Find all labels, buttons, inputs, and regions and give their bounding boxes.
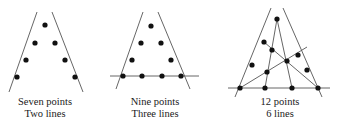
caption-figure-2: Nine points Three lines bbox=[115, 96, 195, 120]
point bbox=[158, 40, 163, 45]
caption-lines: Two lines bbox=[5, 108, 85, 120]
caption-points: 12 points bbox=[240, 96, 320, 108]
point bbox=[264, 69, 269, 74]
line bbox=[265, 19, 277, 88]
point bbox=[23, 57, 28, 62]
point bbox=[120, 73, 125, 78]
point bbox=[72, 74, 77, 79]
point bbox=[261, 39, 266, 44]
point bbox=[295, 52, 300, 57]
point bbox=[178, 73, 183, 78]
point bbox=[315, 85, 320, 90]
figure-seven-points-two-lines bbox=[9, 12, 83, 92]
figure-nine-points-three-lines bbox=[110, 12, 199, 89]
line bbox=[116, 12, 143, 89]
point bbox=[138, 40, 143, 45]
point bbox=[284, 58, 289, 63]
caption-lines: Three lines bbox=[115, 108, 195, 120]
point bbox=[14, 74, 19, 79]
line bbox=[52, 12, 83, 92]
caption-figure-1: Seven points Two lines bbox=[5, 96, 85, 120]
line bbox=[283, 8, 322, 97]
line bbox=[9, 12, 37, 92]
figure-twelve-points-six-lines bbox=[228, 8, 330, 97]
point bbox=[62, 57, 67, 62]
point bbox=[269, 47, 274, 52]
point bbox=[129, 57, 134, 62]
point bbox=[168, 57, 173, 62]
point bbox=[148, 23, 153, 28]
caption-lines: 6 lines bbox=[240, 108, 320, 120]
point bbox=[249, 62, 254, 67]
point bbox=[274, 16, 279, 21]
line bbox=[277, 19, 292, 88]
point bbox=[262, 85, 267, 90]
caption-points: Nine points bbox=[115, 96, 195, 108]
point bbox=[237, 85, 242, 90]
point bbox=[304, 67, 309, 72]
point bbox=[42, 22, 47, 27]
point bbox=[139, 73, 144, 78]
caption-figure-3: 12 points 6 lines bbox=[240, 96, 320, 120]
point bbox=[52, 40, 57, 45]
point bbox=[289, 85, 294, 90]
point bbox=[32, 40, 37, 45]
point bbox=[159, 73, 164, 78]
caption-points: Seven points bbox=[5, 96, 85, 108]
